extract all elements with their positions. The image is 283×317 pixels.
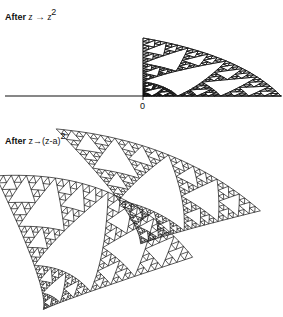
bottom-leaf-fractal (0, 129, 260, 310)
top-arch-fractal (143, 38, 281, 96)
fractal-figure (0, 0, 283, 317)
